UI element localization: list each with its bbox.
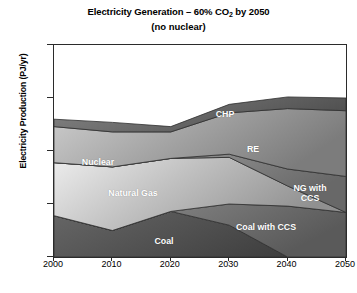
y-axis-title: Electricity Production (PJ/yr) <box>18 11 28 211</box>
x-tick-label-2000: 2000 <box>31 259 75 269</box>
x-tick-label-2010: 2010 <box>89 259 133 269</box>
chart-title-block: Electricity Generation – 60% CO2 by 2050… <box>0 6 357 33</box>
stacked-area-plot <box>54 45 346 257</box>
chart-figure: Electricity Generation – 60% CO2 by 2050… <box>0 0 357 293</box>
chart-subtitle: (no nuclear) <box>0 21 357 33</box>
page-title: Electricity Generation – 60% CO2 by 2050 <box>0 6 357 21</box>
x-tick-label-2050: 2050 <box>323 259 357 269</box>
x-tick-label-2040: 2040 <box>265 259 309 269</box>
chart-title-tail: by 2050 <box>233 6 270 17</box>
plot-area: NuclearCHPRENG with CCSNatural GasCoal w… <box>53 44 347 258</box>
chart-title-main: Electricity Generation – 60% CO <box>87 6 229 17</box>
x-tick-label-2030: 2030 <box>206 259 250 269</box>
x-tick-label-2020: 2020 <box>148 259 192 269</box>
